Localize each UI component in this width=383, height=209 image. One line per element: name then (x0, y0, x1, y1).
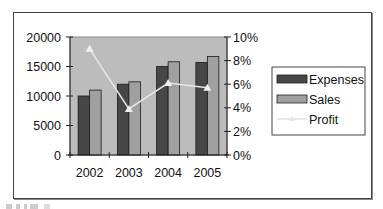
right-tick-label: 4% (233, 101, 251, 115)
x-tick-label: 2004 (154, 166, 182, 180)
right-axis-ticks: 0%2%4%6%8%10% (224, 31, 258, 163)
legend-swatch-sales (277, 95, 307, 103)
right-tick-label: 10% (233, 31, 258, 45)
bar-expenses-2004 (157, 67, 169, 156)
bar-expenses-2005 (196, 62, 208, 155)
left-axis-ticks: 05000100001500020000 (26, 31, 73, 163)
x-tick-label: 2005 (193, 166, 221, 180)
right-tick-label: 2% (233, 125, 251, 139)
left-tick-label: 5000 (33, 119, 61, 133)
bar-sales-2003 (129, 82, 141, 155)
right-tick-label: 8% (233, 54, 251, 68)
right-tick-label: 6% (233, 78, 251, 92)
legend-label-sales: Sales (309, 93, 340, 107)
chart-svg: 05000100001500020000 0%2%4%6%8%10% 20022… (0, 0, 383, 209)
left-tick-label: 10000 (26, 90, 61, 104)
left-tick-label: 0 (54, 149, 61, 163)
x-axis-ticks: 2002200320042005 (70, 152, 227, 180)
bar-expenses-2002 (78, 96, 90, 155)
legend-swatch-expenses (277, 75, 307, 83)
legend: Expenses Sales Profit (272, 67, 365, 135)
cropped-caption (4, 203, 164, 209)
legend-label-expenses: Expenses (309, 73, 364, 87)
bar-sales-2002 (90, 90, 102, 155)
left-tick-label: 15000 (26, 60, 61, 74)
bar-sales-2004 (168, 62, 180, 155)
bar-sales-2005 (207, 56, 219, 155)
x-tick-label: 2002 (76, 166, 104, 180)
legend-label-profit: Profit (309, 113, 339, 127)
right-tick-label: 0% (233, 149, 251, 163)
x-tick-label: 2003 (115, 166, 143, 180)
left-tick-label: 20000 (26, 31, 61, 45)
